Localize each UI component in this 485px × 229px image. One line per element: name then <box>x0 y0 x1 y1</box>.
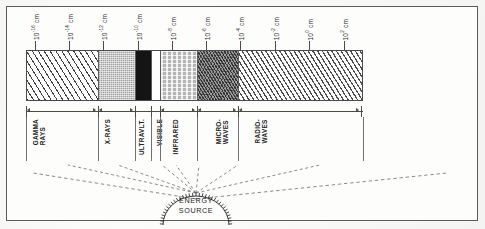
scale-tick-label-7: 10-2 cm <box>272 17 281 40</box>
bracket-arrow-right <box>233 108 236 112</box>
band-label-gammarays: GAMMA RAYS <box>32 119 47 145</box>
band-separator <box>135 117 136 161</box>
sunburst-spike <box>161 218 164 219</box>
spectrum-band-gammarays <box>27 51 99 100</box>
sunburst-spike <box>228 218 231 219</box>
spectrum-band-infrared <box>161 51 198 100</box>
wavelength-scale: 10-16 cm10-14 cm10-12 cm10-10 cm10-8 cm1… <box>7 7 485 50</box>
band-separator <box>151 117 152 161</box>
band-separator <box>160 117 161 161</box>
scale-tick-label-1: 10-14 cm <box>66 14 75 40</box>
band-name-row: GAMMA RAYSX-RAYSULTRAVLT.VISIBLEINFRARED… <box>26 117 363 163</box>
scale-tick-label-0: 10-16 cm <box>32 14 41 40</box>
scale-tick-2 <box>103 41 104 50</box>
scale-tick-label-6: 10-4 cm <box>237 17 246 40</box>
band-separator <box>238 117 239 161</box>
band-separator <box>26 117 27 161</box>
bracket-arrow-right <box>93 108 96 112</box>
scale-tick-label-2: 10-12 cm <box>100 14 109 40</box>
bracket-arrow-left <box>99 108 102 112</box>
band-separator <box>197 117 198 161</box>
band-separator <box>98 117 99 161</box>
energy-source-line2: SOURCE <box>155 206 237 216</box>
bracket-arrow-right <box>130 108 133 112</box>
band-label-xrays: X-RAYS <box>104 119 111 144</box>
scale-tick-5 <box>206 41 207 50</box>
scale-tick-8 <box>309 41 310 50</box>
scale-tick-7 <box>275 41 276 50</box>
scale-tick-label-5: 10-6 cm <box>203 17 212 40</box>
diagram-frame: 10-16 cm10-14 cm10-12 cm10-10 cm10-8 cm1… <box>6 6 478 221</box>
spectrum-band-xrays <box>99 51 136 100</box>
scale-tick-label-9: 102 cm <box>341 19 350 40</box>
bracket-arrow-left <box>198 108 201 112</box>
bracket-arrow-left <box>239 108 242 112</box>
energy-source-sunburst: ENERGY SOURCE <box>155 185 237 229</box>
bracket-arrow-left <box>161 108 164 112</box>
spectrum-band-visible <box>152 51 161 100</box>
scanned-page: 10-16 cm10-14 cm10-12 cm10-10 cm10-8 cm1… <box>0 0 485 229</box>
bracket-arrow-right <box>356 108 359 112</box>
energy-source-line1: ENERGY <box>155 196 237 206</box>
scale-tick-9 <box>344 41 345 50</box>
scale-tick-label-4: 10-8 cm <box>169 17 178 40</box>
scale-tick-4 <box>172 41 173 50</box>
band-label-infrared: INFRARED <box>172 119 179 154</box>
band-label-radiowaves: RADIO- WAVES <box>254 119 269 144</box>
energy-source-label: ENERGY SOURCE <box>155 196 237 215</box>
scale-tick-label-8: 100 cm <box>306 19 315 40</box>
scale-tick-label-3: 10-10 cm <box>135 14 144 40</box>
band-label-microwaves: MICRO- WAVES <box>215 119 230 144</box>
spectrum-band-microwaves <box>198 51 239 100</box>
band-label-ultravlt: ULTRAVLT. <box>138 119 145 155</box>
spectrum-band-radiowaves <box>239 51 362 100</box>
scale-tick-0 <box>35 41 36 50</box>
scale-tick-6 <box>240 41 241 50</box>
scale-tick-1 <box>69 41 70 50</box>
bracket-divider <box>151 106 152 117</box>
bracket-arrow-left <box>27 108 30 112</box>
spectrum-band-ultravlt <box>136 51 152 100</box>
band-separator <box>363 117 364 161</box>
scale-tick-3 <box>138 41 139 50</box>
spectrum-bar <box>26 50 363 101</box>
bracket-arrow-right <box>192 108 195 112</box>
bracket-divider <box>135 106 136 117</box>
bracket-divider <box>361 106 362 117</box>
